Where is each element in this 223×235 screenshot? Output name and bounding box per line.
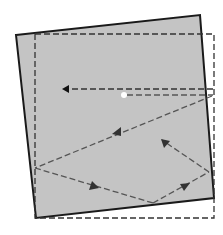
- diagram-canvas: [0, 0, 223, 235]
- diagram-svg: [0, 0, 223, 235]
- start-dot: [121, 92, 127, 98]
